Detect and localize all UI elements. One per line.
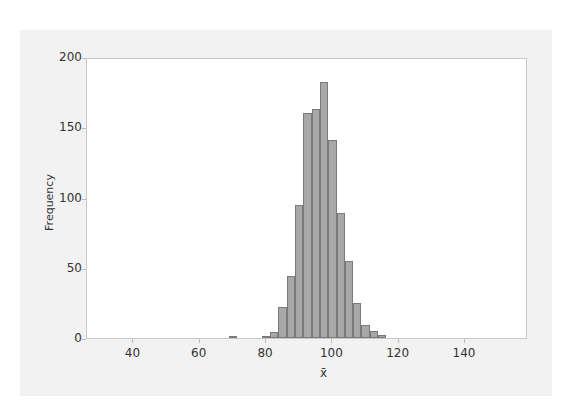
histogram-bar <box>345 261 353 338</box>
histogram-bar <box>295 205 303 338</box>
x-tick-label: 100 <box>316 346 346 360</box>
y-tick-label: 200 <box>59 50 82 64</box>
y-axis-label: Frequency <box>43 168 56 238</box>
y-tick-mark <box>82 339 86 340</box>
histogram-bar <box>270 332 278 338</box>
histogram-bar <box>328 140 336 338</box>
y-tick-label: 100 <box>59 191 82 205</box>
histogram-bar <box>337 213 345 338</box>
histogram-bar <box>320 82 328 338</box>
histogram-bar <box>287 276 295 338</box>
x-tick-label: 120 <box>383 346 413 360</box>
y-tick-mark <box>82 269 86 270</box>
y-tick-label: 50 <box>67 261 82 275</box>
x-tick-label: 80 <box>250 346 280 360</box>
x-tick-mark <box>265 339 266 343</box>
histogram-bar <box>361 325 369 338</box>
histogram-bar <box>262 336 270 338</box>
y-tick-label: 150 <box>59 120 82 134</box>
y-tick-mark <box>82 128 86 129</box>
histogram-bar <box>278 307 286 338</box>
x-axis-label: x̄ <box>320 366 327 380</box>
y-tick-mark <box>82 199 86 200</box>
x-tick-label: 60 <box>184 346 214 360</box>
histogram-bar <box>303 113 311 338</box>
x-tick-mark <box>132 339 133 343</box>
plot-area <box>86 58 527 339</box>
y-tick-label: 0 <box>74 331 82 345</box>
histogram-bar <box>353 303 361 338</box>
x-tick-mark <box>464 339 465 343</box>
x-tick-mark <box>331 339 332 343</box>
histogram-bar <box>378 335 386 338</box>
histogram-bar <box>370 331 378 338</box>
x-tick-label: 40 <box>117 346 147 360</box>
histogram-bar <box>229 336 237 338</box>
x-tick-mark <box>398 339 399 343</box>
x-tick-mark <box>199 339 200 343</box>
histogram-bar <box>312 109 320 338</box>
x-tick-label: 140 <box>449 346 479 360</box>
y-tick-mark <box>82 58 86 59</box>
